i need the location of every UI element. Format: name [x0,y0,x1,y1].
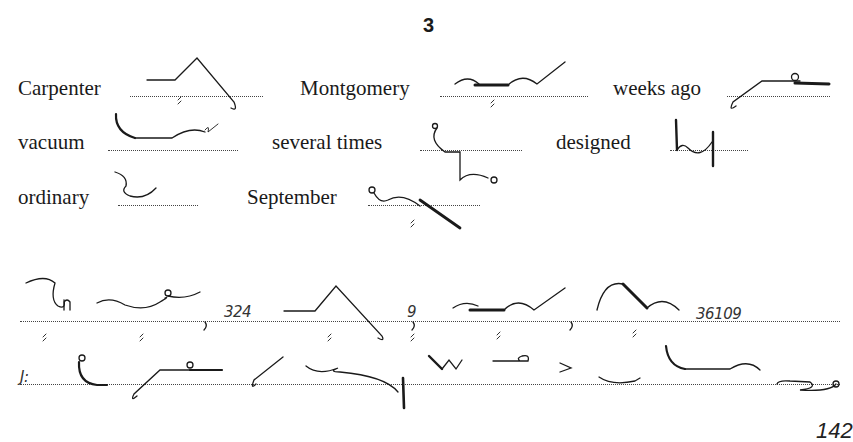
page-number: 142 [816,418,853,442]
